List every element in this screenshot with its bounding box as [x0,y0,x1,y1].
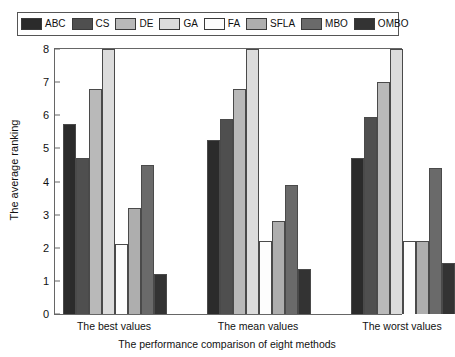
x-axis-tick-labels: The best valuesThe mean valuesThe worst … [54,320,400,336]
plot-wrapper: The average ranking 012345678 The best v… [0,44,416,357]
x-axis-title: The performance comparison of eight meth… [54,338,400,350]
chart-legend: ABCCSDEGAFASFLAMBOOMBO [17,12,399,36]
bar-cs-group2 [220,119,233,314]
y-tick-mark-6 [55,115,60,116]
legend-swatch-de [115,18,136,30]
legend-item-abc: ABC [21,18,72,30]
bar-mbo-group2 [285,185,298,314]
legend-swatch-cs [72,18,93,30]
group-spacer-1 [167,49,207,314]
legend-label-abc: ABC [45,19,66,29]
x-tick-label-1: The best values [77,320,151,332]
y-tick-mark-7 [55,82,60,83]
bar-cs-group3 [364,117,377,314]
legend-label-sfla: SFLA [270,19,295,29]
bar-cs-group1 [76,158,89,314]
legend-label-de: DE [139,19,153,29]
y-tick-mark-0 [55,314,60,315]
bar-mbo-group1 [141,165,154,314]
legend-label-cs: CS [96,19,110,29]
y-tick-mark-4 [55,181,60,182]
y-tick-label-5: 5 [43,142,55,154]
bar-de-group3 [377,82,390,314]
y-tick-label-0: 0 [43,308,55,320]
legend-label-fa: FA [228,19,240,29]
bar-de-group1 [89,89,102,314]
y-tick-mark-2 [55,247,60,248]
y-tick-label-4: 4 [43,176,55,188]
legend-item-ombo: OMBO [354,18,415,30]
y-tick-mark-3 [55,214,60,215]
legend-swatch-mbo [301,18,322,30]
bar-ga-group3 [390,49,403,314]
plot-area: 012345678 [54,48,402,315]
legend-swatch-sfla [246,18,267,30]
bar-ombo-group1 [154,274,167,314]
y-tick-label-2: 2 [43,242,55,254]
y-tick-mark-8 [55,49,60,50]
bar-abc-group1 [63,124,76,314]
y-tick-mark-5 [55,148,60,149]
bar-group-2 [207,49,311,314]
legend-item-de: DE [115,18,159,30]
bar-abc-group2 [207,140,220,314]
legend-label-ombo: OMBO [378,19,409,29]
legend-item-sfla: SFLA [246,18,301,30]
bar-de-group2 [233,89,246,314]
y-tick-label-1: 1 [43,275,55,287]
bar-sfla-group2 [272,221,285,314]
bar-fa-group3 [403,241,416,314]
legend-swatch-ombo [354,18,375,30]
x-tick-label-2: The mean values [218,320,299,332]
bar-sfla-group3 [416,241,429,314]
legend-item-ga: GA [159,18,203,30]
y-axis-title: The average ranking [8,90,20,250]
bar-abc-group3 [351,158,364,314]
bar-group-3 [351,49,455,314]
y-tick-label-8: 8 [43,43,55,55]
y-tick-mark-1 [55,280,60,281]
group-spacer-2 [311,49,351,314]
legend-swatch-fa [204,18,225,30]
x-tick-label-3: The worst values [362,320,441,332]
bar-fa-group1 [115,244,128,314]
legend-item-fa: FA [204,18,246,30]
bar-mbo-group3 [429,168,442,314]
y-tick-label-3: 3 [43,209,55,221]
bar-ga-group1 [102,49,115,314]
y-tick-label-7: 7 [43,76,55,88]
bar-ga-group2 [246,49,259,314]
legend-swatch-ga [159,18,180,30]
bar-groups [55,49,401,314]
bar-sfla-group1 [128,208,141,314]
y-tick-label-6: 6 [43,109,55,121]
bar-fa-group2 [259,241,272,314]
legend-swatch-abc [21,18,42,30]
legend-label-ga: GA [183,19,197,29]
legend-item-cs: CS [72,18,116,30]
bar-ombo-group2 [298,269,311,314]
bar-group-1 [63,49,167,314]
legend-item-mbo: MBO [301,18,354,30]
bar-ombo-group3 [442,263,455,314]
legend-label-mbo: MBO [325,19,348,29]
